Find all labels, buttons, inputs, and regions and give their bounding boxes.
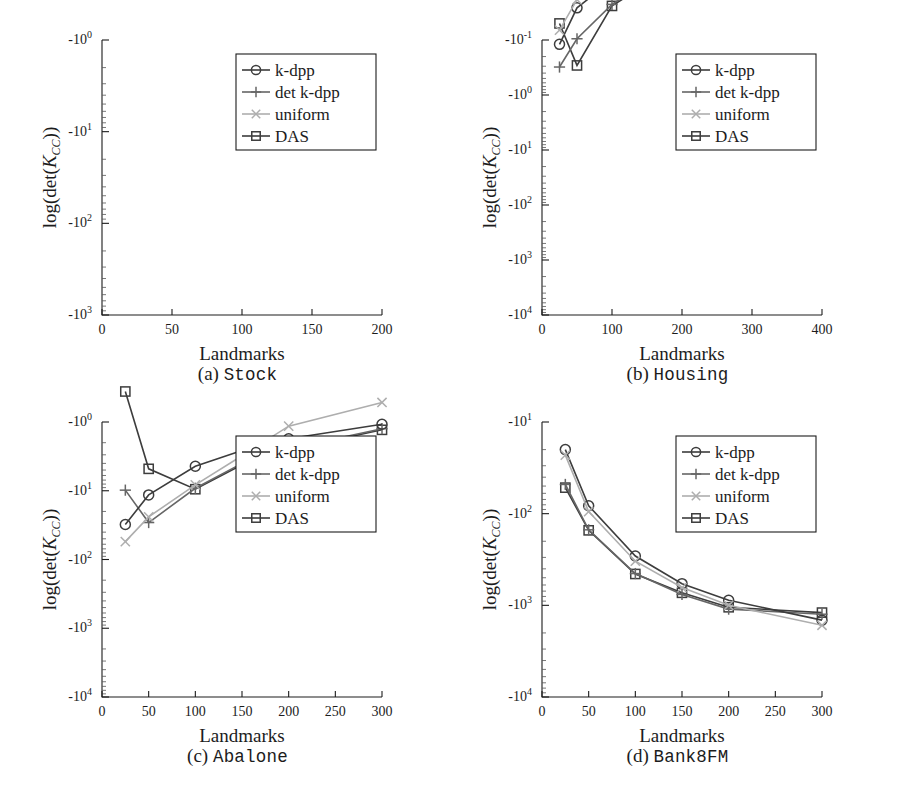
y-axis-ticks-d: -101-102-103-104: [508, 411, 549, 704]
legend-label: uniform: [275, 105, 330, 124]
legend-label: det k-dpp: [715, 83, 780, 102]
x-tick-label: 0: [539, 322, 546, 337]
y-axis-title: log(det(KCC)): [39, 509, 63, 611]
marker-cross: [121, 537, 130, 546]
y-tick-label: -100: [68, 29, 92, 47]
y-tick-label: -101: [508, 411, 532, 429]
series-k-dpp: [555, 0, 828, 49]
chart-panel-c: -100-101-102-103-104050100150200250300La…: [10, 400, 465, 790]
x-tick-label: 200: [278, 704, 299, 719]
svg-text:log(det(KCC)): log(det(KCC)): [479, 127, 503, 229]
marker-cross: [584, 507, 593, 516]
x-tick-label: 50: [165, 322, 179, 337]
caption-dataset-name: Bank8FM: [653, 747, 728, 767]
panel-caption-c: (c) Abalone: [10, 745, 465, 767]
x-tick-label: 250: [325, 704, 346, 719]
x-tick-label: 300: [812, 704, 833, 719]
marker-cross: [631, 557, 640, 566]
x-tick-label: 250: [765, 704, 786, 719]
x-tick-label: 150: [232, 704, 253, 719]
legend-d: k-dppdet k-dppuniformDAS: [676, 436, 816, 532]
marker-cross: [561, 451, 570, 460]
x-axis-ticks-a: 050100150200: [99, 309, 393, 337]
legend-label: uniform: [275, 487, 330, 506]
x-tick-label: 300: [372, 704, 393, 719]
legend-label: k-dpp: [715, 443, 755, 462]
chart-panel-b: -10-1-100-101-102-103-1040100200300400La…: [450, 18, 905, 408]
chart-panel-a: -100-101-102-103050100150200Landmarkslog…: [10, 18, 465, 408]
marker-circle: [555, 39, 565, 49]
x-tick-label: 0: [99, 322, 106, 337]
y-axis-ticks-a: -100-101-102-103: [68, 29, 109, 322]
y-tick-label: -103: [508, 594, 532, 612]
y-axis-ticks-c: -100-101-102-103-104: [68, 411, 109, 704]
caption-dataset-name: Housing: [653, 365, 728, 385]
y-tick-label: -101: [68, 480, 92, 498]
legend-a: k-dppdet k-dppuniformDAS: [236, 54, 376, 150]
panel-caption-a: (a) Stock: [10, 363, 465, 385]
svg-text:log(det(KCC)): log(det(KCC)): [39, 127, 63, 229]
series-uniform: [555, 0, 827, 35]
x-axis-ticks-b: 0100200300400: [539, 309, 833, 337]
legend-label: k-dpp: [275, 61, 315, 80]
panel-caption-b: (b) Housing: [450, 363, 905, 385]
y-tick-label: -100: [68, 411, 92, 429]
panel-caption-d: (d) Bank8FM: [450, 745, 905, 767]
x-axis-title: Landmarks: [199, 343, 284, 364]
legend-b: k-dppdet k-dppuniformDAS: [676, 54, 816, 150]
y-axis-title: log(det(KCC)): [479, 509, 503, 611]
svg-text:log(det(KCC)): log(det(KCC)): [39, 509, 63, 611]
caption-index: (a): [198, 363, 219, 384]
y-tick-label: -103: [68, 304, 92, 322]
y-tick-label: -103: [508, 249, 532, 267]
y-tick-label: -104: [508, 686, 532, 704]
chart-panel-d: -101-102-103-104050100150200250300Landma…: [450, 400, 905, 790]
x-tick-label: 150: [672, 704, 693, 719]
x-tick-label: 100: [232, 322, 253, 337]
y-tick-label: -103: [68, 617, 92, 635]
legend-label: k-dpp: [715, 61, 755, 80]
x-tick-label: 100: [625, 704, 646, 719]
x-tick-label: 0: [99, 704, 106, 719]
x-tick-label: 200: [672, 322, 693, 337]
x-tick-label: 200: [372, 322, 393, 337]
y-tick-label: -101: [68, 121, 92, 139]
y-tick-label: -104: [68, 686, 92, 704]
y-tick-label: -100: [508, 84, 532, 102]
x-tick-label: 0: [539, 704, 546, 719]
legend-label: uniform: [715, 487, 770, 506]
y-tick-label: -10-1: [505, 29, 532, 47]
y-axis-title: log(det(KCC)): [479, 127, 503, 229]
svg-text:log(det(KCC)): log(det(KCC)): [479, 509, 503, 611]
x-tick-label: 300: [742, 322, 763, 337]
x-axis-ticks-c: 050100150200250300: [99, 691, 393, 719]
y-tick-label: -101: [508, 139, 532, 157]
legend-label: uniform: [715, 105, 770, 124]
legend-label: det k-dpp: [715, 465, 780, 484]
legend-c: k-dppdet k-dppuniformDAS: [236, 436, 376, 532]
x-tick-label: 50: [582, 704, 596, 719]
legend-label: DAS: [715, 509, 749, 528]
x-axis-title: Landmarks: [199, 725, 284, 746]
x-axis-title: Landmarks: [639, 343, 724, 364]
x-tick-label: 150: [302, 322, 323, 337]
figure-container: -100-101-102-103050100150200Landmarkslog…: [0, 0, 914, 803]
x-tick-label: 400: [812, 322, 833, 337]
marker-plus: [120, 485, 131, 496]
x-axis-ticks-d: 050100150200250300: [539, 691, 833, 719]
chart-svg-d: -101-102-103-104050100150200250300Landma…: [450, 400, 905, 740]
y-tick-label: -102: [68, 549, 92, 567]
legend-label: det k-dpp: [275, 465, 340, 484]
caption-index: (b): [627, 363, 649, 384]
chart-svg-a: -100-101-102-103050100150200Landmarkslog…: [10, 18, 465, 358]
x-tick-label: 100: [602, 322, 623, 337]
y-tick-label: -102: [508, 503, 532, 521]
legend-label: DAS: [275, 509, 309, 528]
x-axis-title: Landmarks: [639, 725, 724, 746]
legend-label: k-dpp: [275, 443, 315, 462]
y-axis-title: log(det(KCC)): [39, 127, 63, 229]
marker-plus: [143, 517, 154, 528]
legend-label: det k-dpp: [275, 83, 340, 102]
chart-svg-c: -100-101-102-103-104050100150200250300La…: [10, 400, 465, 740]
legend-label: DAS: [275, 127, 309, 146]
